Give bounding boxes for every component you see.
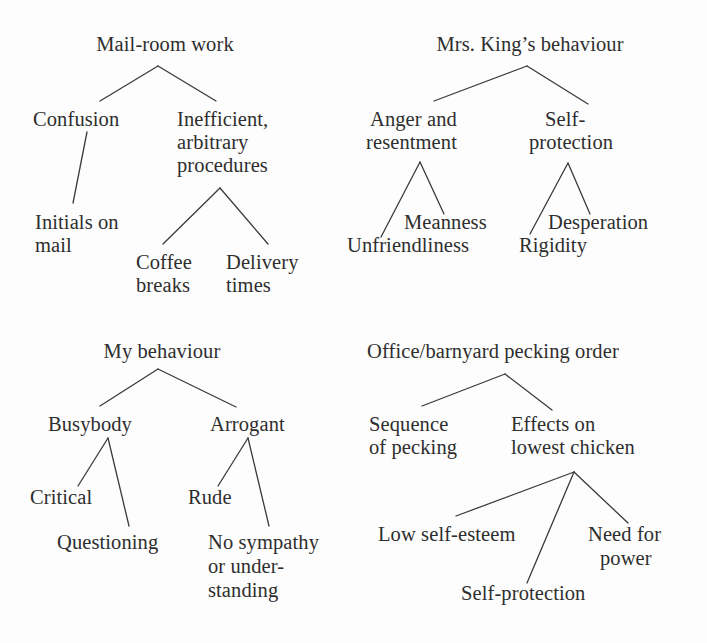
tree1-node-coffee-breaks-line2: breaks [136, 274, 190, 298]
tree4-node-sequence-of-pecking-line1: Sequence [369, 413, 448, 437]
edge-effects-to-needforpower [574, 472, 628, 523]
tree2-node-desperation: Desperation [548, 211, 648, 235]
tree4-node-effects-lowest-chicken-line2: lowest chicken [511, 436, 635, 460]
tree3-node-rude: Rude [188, 486, 232, 510]
edge-mybehaviour-to-arrogant [158, 369, 236, 407]
edge-effects-to-lowselfesteem [456, 472, 574, 516]
tree2-node-anger-resentment-line1: Anger and [370, 108, 457, 132]
tree1-node-inefficient-line1: Inefficient, [177, 108, 268, 132]
edge-arrogant-to-nosympathy [248, 438, 269, 526]
edge-peckingorder-to-effects [505, 374, 552, 410]
tree3-node-nosympathy-line2: or under- [208, 555, 284, 579]
tree4-node-self-protection: Self-protection [461, 582, 585, 606]
tree1-node-inefficient-line2: arbitrary [177, 131, 248, 155]
edge-mybehaviour-to-busybody [100, 369, 158, 406]
edge-mailroom-to-confusion [100, 66, 158, 101]
tree1-node-delivery-times-line1: Delivery [226, 251, 299, 275]
edge-selfprotection-to-desperation [568, 163, 590, 214]
edge-busybody-to-critical [78, 438, 108, 486]
edge-king-to-selfprotection [527, 66, 588, 104]
tree3-node-arrogant: Arrogant [210, 413, 285, 437]
tree2-node-self-protection-line2: protection [529, 131, 613, 155]
diagram-page: Mail-room work Confusion Initials on mai… [0, 0, 707, 643]
edge-confusion-to-initials [73, 132, 87, 203]
edge-procedures-to-delivery [220, 188, 268, 244]
tree3-node-questioning: Questioning [57, 531, 158, 555]
tree1-node-delivery-times-line2: times [226, 274, 271, 298]
tree2-root-mrs-kings-behaviour: Mrs. King’s behaviour [436, 33, 623, 57]
tree4-node-low-self-esteem: Low self-esteem [378, 523, 516, 547]
tree4-root-office-barnyard-pecking-order: Office/barnyard pecking order [367, 340, 619, 364]
tree1-node-confusion: Confusion [33, 108, 119, 132]
tree3-node-critical: Critical [30, 486, 92, 510]
edge-busybody-to-questioning [108, 438, 129, 526]
edge-king-to-anger [434, 66, 527, 101]
tree2-node-unfriendliness: Unfriendliness [347, 234, 469, 258]
edge-procedures-to-coffee [163, 188, 220, 244]
tree3-root-my-behaviour: My behaviour [104, 340, 221, 364]
tree1-node-coffee-breaks-line1: Coffee [136, 251, 192, 275]
tree2-node-self-protection-line1: Self- [545, 108, 585, 132]
tree1-root-mail-room-work: Mail-room work [96, 33, 233, 57]
tree3-node-nosympathy-line1: No sympathy [208, 531, 319, 555]
tree4-node-sequence-of-pecking-line2: of pecking [369, 436, 457, 460]
tree4-node-need-for-power-line1: Need for [588, 523, 661, 547]
edge-peckingorder-to-sequence [422, 374, 505, 406]
tree4-node-effects-lowest-chicken-line1: Effects on [511, 413, 595, 437]
tree2-node-rigidity: Rigidity [519, 234, 587, 258]
edge-mailroom-to-inefficient [158, 66, 216, 101]
edge-effects-to-selfprotection [527, 472, 574, 583]
tree3-node-nosympathy-line3: standing [208, 579, 278, 603]
tree1-node-inefficient-line3: procedures [177, 154, 268, 178]
tree1-node-initials-on-mail-line2: mail [35, 234, 72, 258]
tree2-node-anger-resentment-line2: resentment [366, 131, 457, 155]
edge-anger-to-meanness [420, 162, 444, 214]
tree4-node-need-for-power-line2: power [600, 547, 652, 571]
tree1-node-initials-on-mail-line1: Initials on [35, 211, 119, 235]
tree2-node-meanness: Meanness [404, 211, 487, 235]
tree3-node-busybody: Busybody [48, 413, 132, 437]
edge-arrogant-to-rude [218, 438, 248, 486]
